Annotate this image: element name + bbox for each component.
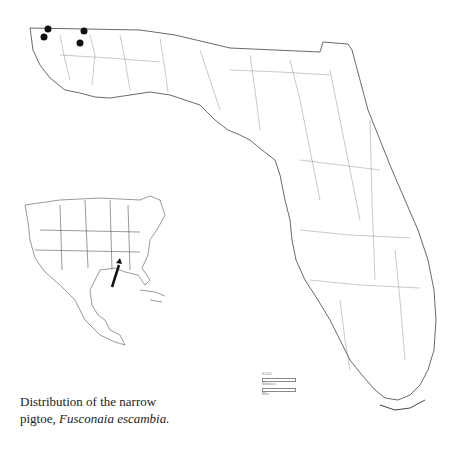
scale-bar: SCALE Kilometers Miles — [262, 372, 296, 396]
occurrence-dot — [77, 40, 84, 47]
florida-rivers — [60, 35, 420, 370]
scale-unit-miles: Miles — [262, 392, 296, 396]
caption-line-2: pigtoe, Fusconaia escambia. — [20, 410, 169, 427]
caption-line-1: Distribution of the narrow — [20, 393, 169, 410]
florida-map — [30, 28, 436, 410]
scale-unit-km: Kilometers — [262, 382, 296, 386]
distribution-map — [0, 0, 459, 452]
inset-arrow-icon — [112, 258, 122, 287]
occurrence-dot — [41, 34, 48, 41]
occurrence-dot — [45, 26, 52, 33]
inset-locator-map — [25, 196, 165, 345]
scale-title: SCALE — [262, 372, 296, 376]
species-name: Fusconaia escambia. — [59, 411, 169, 426]
figure-caption: Distribution of the narrow pigtoe, Fusco… — [20, 393, 169, 427]
caption-prefix: pigtoe, — [20, 411, 59, 426]
occurrence-dot — [81, 28, 88, 35]
